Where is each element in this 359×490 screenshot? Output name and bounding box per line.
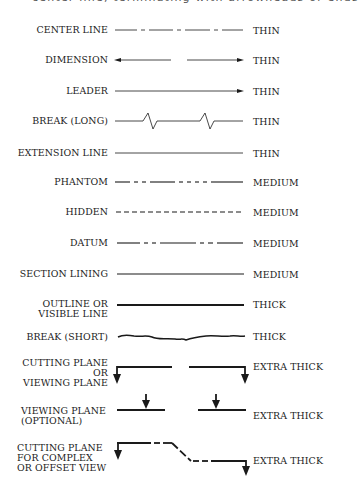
arrowhead-icon	[242, 466, 250, 476]
arrowhead-icon	[237, 89, 244, 93]
arrowhead-icon	[142, 400, 150, 409]
break-short-sample	[118, 335, 245, 340]
arrowhead-icon	[113, 374, 121, 384]
arrowhead-icon	[114, 58, 121, 62]
arrowhead-icon	[212, 400, 220, 409]
cutting-plane-offset-sample	[117, 443, 246, 468]
break-long-sample	[115, 113, 243, 129]
arrowhead-icon	[114, 450, 122, 460]
arrowhead-icon	[241, 374, 249, 384]
viewing-plane-optional-sample	[117, 394, 246, 410]
cutting-plane-sample	[117, 366, 245, 376]
arrowhead-icon	[237, 58, 244, 62]
